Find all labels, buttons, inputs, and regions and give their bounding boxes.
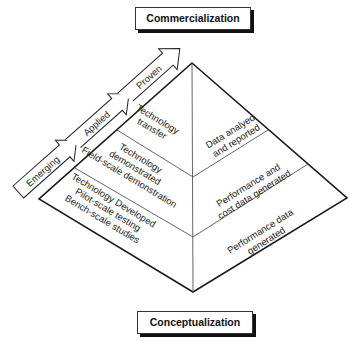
right-level-1-text: Data analyed and reported: [203, 112, 262, 160]
pyramid-graphic: Emerging Applied Proven Technology trans…: [0, 0, 356, 341]
pyramid-center-edge: [192, 63, 193, 292]
left-level-1-text: Technology transfer: [129, 102, 182, 146]
conceptualization-label: Conceptualization: [150, 316, 240, 328]
conceptualization-box: Conceptualization: [137, 311, 253, 334]
right-level-3-text: Performance data generated: [225, 206, 301, 265]
technology-maturity-pyramid-diagram: Commercialization Emerging Applied Prove…: [0, 0, 356, 341]
